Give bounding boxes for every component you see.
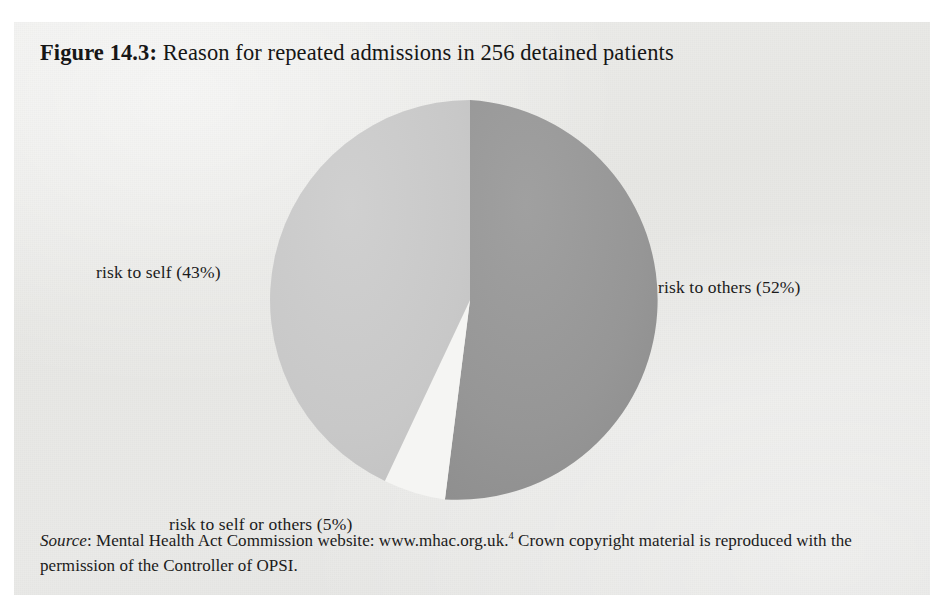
figure-panel: Figure 14.3: Reason for repeated admissi…	[14, 22, 930, 595]
source-word-label: Source	[40, 531, 87, 550]
source-note: Source: Mental Health Act Commission web…	[40, 528, 912, 578]
source-text-before-footnote: : Mental Health Act Commission website: …	[87, 531, 509, 550]
pie-label-risk-to-others: risk to others (52%)	[658, 277, 801, 298]
pie-label-risk-to-self: risk to self (43%)	[96, 262, 221, 283]
pie-slice-risk-to-others[interactable]	[445, 100, 658, 500]
pie-chart: risk to self (43%) risk to others (52%) …	[14, 22, 930, 595]
pie-chart-svg	[14, 22, 930, 595]
